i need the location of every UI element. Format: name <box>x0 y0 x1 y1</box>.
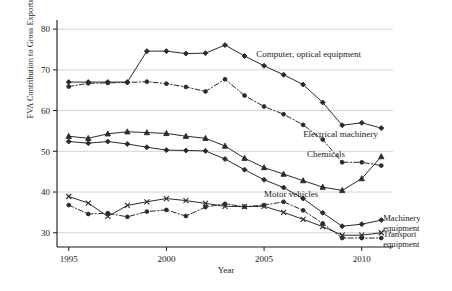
y-tick-label-80: 80 <box>41 24 51 34</box>
data-point <box>262 203 266 207</box>
series-transport-equipment <box>67 200 383 240</box>
data-point <box>66 139 71 144</box>
line-chart-svg: 3040506070801995200020052010Computer, op… <box>0 0 452 291</box>
x-tick-label-2000: 2000 <box>157 254 176 264</box>
data-point <box>183 148 188 153</box>
data-point <box>282 112 286 116</box>
series-label: equipment <box>383 239 420 249</box>
data-point <box>184 214 188 218</box>
data-point <box>243 94 247 98</box>
data-point <box>379 154 384 159</box>
data-point <box>86 212 90 216</box>
data-point <box>262 177 267 182</box>
data-point <box>203 148 208 153</box>
series-label: Motor vehicles <box>264 189 319 199</box>
data-point <box>223 157 228 162</box>
data-point <box>282 200 286 204</box>
y-tick-label-40: 40 <box>41 187 51 197</box>
data-point <box>242 54 247 59</box>
data-point <box>144 49 149 54</box>
series-label: Electrical machinery <box>303 129 378 139</box>
data-point <box>223 202 227 206</box>
data-point <box>379 164 383 168</box>
data-point <box>164 49 169 54</box>
data-point <box>105 139 110 144</box>
data-point <box>86 141 91 146</box>
data-point <box>86 81 90 85</box>
data-point <box>360 160 364 164</box>
data-point <box>204 205 208 209</box>
data-point <box>164 82 168 86</box>
data-point <box>145 80 149 84</box>
x-axis-title: Year <box>0 265 452 275</box>
data-point <box>360 236 364 240</box>
data-point <box>125 141 130 146</box>
data-point <box>203 51 208 56</box>
data-point <box>281 72 286 77</box>
data-point <box>359 120 364 125</box>
y-tick-label-60: 60 <box>41 106 51 116</box>
data-point <box>164 208 168 212</box>
data-point <box>164 148 169 153</box>
x-tick-label-2005: 2005 <box>255 254 274 264</box>
data-point <box>321 221 325 225</box>
data-point <box>379 126 384 131</box>
data-point <box>66 80 71 85</box>
data-point <box>67 203 71 207</box>
data-point <box>340 236 344 240</box>
data-point <box>145 210 149 214</box>
data-point <box>66 133 71 138</box>
data-point <box>144 145 149 150</box>
series-machinery-equipment <box>66 194 384 238</box>
data-point <box>223 43 228 48</box>
x-tick-label-1995: 1995 <box>60 254 79 264</box>
data-point <box>359 222 364 227</box>
data-point <box>262 63 267 68</box>
series-label: Computer, optical equipment <box>256 49 361 59</box>
data-point <box>301 208 305 212</box>
data-point <box>106 81 110 85</box>
data-point <box>67 85 71 89</box>
y-tick-label-30: 30 <box>41 228 51 238</box>
data-point <box>223 77 227 81</box>
data-point <box>340 160 344 164</box>
data-point <box>301 123 305 127</box>
series-label: Chemicals <box>307 149 345 159</box>
y-tick-label-70: 70 <box>41 65 51 75</box>
data-point <box>183 51 188 56</box>
x-tick-label-2010: 2010 <box>353 254 372 264</box>
series-label: Machinery <box>383 213 421 223</box>
data-point <box>262 105 266 109</box>
data-point <box>242 155 247 160</box>
chart-figure: FVA Contribution to Gross Exports (%) 30… <box>0 0 452 291</box>
data-point <box>184 85 188 89</box>
data-point <box>125 81 129 85</box>
data-point <box>106 211 110 215</box>
data-point <box>242 167 247 172</box>
series-label: Transport <box>383 229 417 239</box>
y-tick-label-50: 50 <box>41 147 51 157</box>
data-point <box>204 90 208 94</box>
data-point <box>125 215 129 219</box>
data-point <box>243 205 247 209</box>
